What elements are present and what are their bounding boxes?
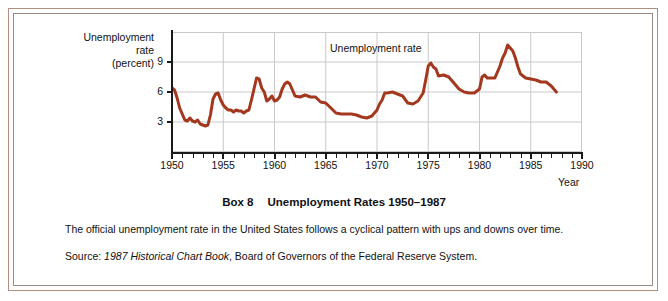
caption-source: Source: 1987 Historical Chart Book, Boar… — [65, 249, 605, 263]
x-tick-mark-minor — [295, 154, 296, 158]
x-tick-mark-minor — [449, 154, 450, 158]
x-tick-mark-minor — [264, 154, 265, 158]
x-tick-mark-minor — [254, 154, 255, 158]
caption-body-text: The official unemployment rate in the Un… — [65, 222, 605, 236]
y-tick-mark — [167, 91, 172, 93]
x-tick-mark-minor — [500, 154, 501, 158]
x-tick-label: 1950 — [152, 159, 192, 171]
x-tick-label: 1990 — [562, 159, 602, 171]
source-rest: , Board of Governors of the Federal Rese… — [229, 250, 477, 262]
x-tick-mark-minor — [408, 154, 409, 158]
x-tick-label: 1965 — [306, 159, 346, 171]
x-tick-mark-minor — [203, 154, 204, 158]
x-tick-mark-minor — [367, 154, 368, 158]
x-tick-mark-minor — [285, 154, 286, 158]
series-annotation-label: Unemployment rate — [330, 42, 422, 54]
x-tick-mark-minor — [562, 154, 563, 158]
source-prefix: Source: — [65, 250, 101, 262]
x-tick-label: 1955 — [203, 159, 243, 171]
source-title: 1987 Historical Chart Book — [104, 250, 229, 262]
caption-title: Box 8Unemployment Rates 1950–1987 — [0, 196, 668, 208]
x-axis-label: Year — [558, 176, 579, 188]
caption-title-text: Unemployment Rates 1950–1987 — [267, 196, 445, 208]
x-tick-mark-minor — [418, 154, 419, 158]
x-tick-label: 1975 — [408, 159, 448, 171]
y-tick-mark — [167, 121, 172, 123]
y-tick-mark — [167, 61, 172, 63]
x-tick-mark-minor — [336, 154, 337, 158]
x-tick-mark-minor — [439, 154, 440, 158]
x-tick-label: 1980 — [460, 159, 500, 171]
x-tick-mark-minor — [234, 154, 235, 158]
y-axis-title-line-1: Unemployment — [52, 31, 154, 44]
x-tick-mark-minor — [182, 154, 183, 158]
x-tick-mark-minor — [316, 154, 317, 158]
chart-figure: Unemployment rate (percent) 369 19501955… — [0, 0, 668, 196]
x-tick-label: 1970 — [357, 159, 397, 171]
x-tick-mark-minor — [459, 154, 460, 158]
box-number-label: Box 8 — [222, 196, 253, 208]
x-tick-mark-minor — [244, 154, 245, 158]
x-tick-label: 1960 — [255, 159, 295, 171]
x-tick-mark-minor — [387, 154, 388, 158]
x-tick-label: 1985 — [511, 159, 551, 171]
x-tick-mark-minor — [551, 154, 552, 158]
y-tick-label: 9 — [139, 55, 163, 67]
y-tick-label: 3 — [139, 115, 163, 127]
x-tick-mark-minor — [213, 154, 214, 158]
x-tick-mark-minor — [541, 154, 542, 158]
x-tick-mark-minor — [572, 154, 573, 158]
x-tick-mark-minor — [469, 154, 470, 158]
y-tick-label: 6 — [139, 85, 163, 97]
x-tick-mark-minor — [490, 154, 491, 158]
x-tick-mark-minor — [346, 154, 347, 158]
unemployment-rate-line — [172, 45, 556, 126]
x-tick-mark-minor — [521, 154, 522, 158]
x-tick-mark-minor — [398, 154, 399, 158]
x-tick-mark-minor — [305, 154, 306, 158]
x-tick-mark-minor — [357, 154, 358, 158]
x-tick-mark-minor — [193, 154, 194, 158]
x-tick-mark-minor — [510, 154, 511, 158]
